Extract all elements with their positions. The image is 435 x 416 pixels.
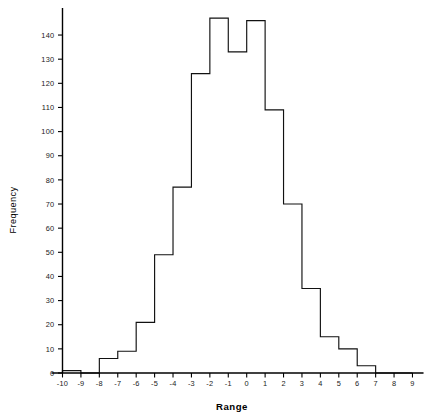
x-axis-tick-label: -8 [96,379,103,388]
x-axis-tick-label: 6 [355,379,359,388]
y-axis-tick-label: 80 [46,176,55,185]
y-axis-tick-label: 90 [46,151,55,160]
x-axis-tick-label: -9 [77,379,84,388]
y-axis-tick-label: 30 [46,296,55,305]
histogram-outline [63,18,413,373]
chart-canvas: 0102030405060708090100110120130140 -10-9… [0,0,435,416]
x-axis-tick-label: -1 [225,379,232,388]
x-axis-tick-label: 8 [392,379,396,388]
y-axis: 0102030405060708090100110120130140 [41,8,62,378]
y-axis-tick-label: 50 [46,248,55,257]
y-axis-tick-label: 10 [46,345,55,354]
x-axis: -10-9-8-7-6-5-4-3-2-10123456789 [51,373,423,388]
x-axis-tick-label: -3 [188,379,195,388]
x-axis-tick-label: -10 [57,379,68,388]
y-axis-tick-label: 130 [41,55,54,64]
y-axis-title: Frequency [8,186,18,233]
y-axis-tick-label: 70 [46,200,55,209]
y-axis-tick-label: 20 [46,320,55,329]
x-axis-tick-label: 7 [373,379,377,388]
x-axis-tick-label: 4 [318,379,322,388]
x-axis-tick-label: 3 [300,379,304,388]
x-axis-tick-label: 9 [410,379,414,388]
y-axis-tick-label: 100 [41,127,54,136]
y-axis-tick-label: 140 [41,31,54,40]
x-axis-title: Range [216,401,248,412]
x-axis-tick-label: -2 [206,379,213,388]
y-axis-tick-label: 40 [46,272,55,281]
plot-area [63,18,413,373]
x-axis-tick-label: -5 [151,379,158,388]
x-axis-tick-label: -7 [114,379,121,388]
x-axis-tick-label: 1 [263,379,267,388]
y-axis-tick-label: 110 [42,103,55,112]
y-axis-tick-label: 120 [41,79,54,88]
x-axis-tick-label: 0 [245,379,249,388]
x-axis-tick-label: 5 [337,379,341,388]
x-axis-tick-label: -4 [170,379,177,388]
histogram-bars [63,18,413,373]
y-axis-tick-label: 60 [46,224,55,233]
histogram-chart: 0102030405060708090100110120130140 -10-9… [0,0,435,416]
x-axis-tick-label: 2 [281,379,285,388]
x-axis-tick-label: -6 [133,379,140,388]
